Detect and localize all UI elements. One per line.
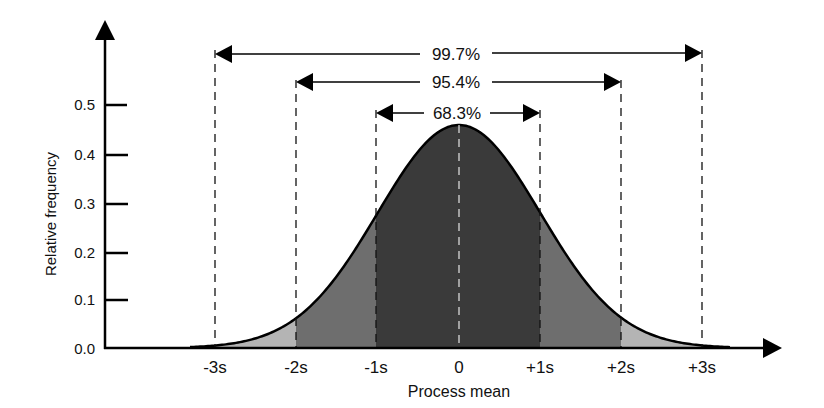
label-99-7: 99.7% bbox=[432, 45, 480, 64]
x-tick-minus-3s: -3s bbox=[203, 358, 227, 377]
span-683: 68.3% bbox=[376, 104, 540, 123]
label-68-3: 68.3% bbox=[433, 104, 481, 123]
arrow-right-icon bbox=[685, 44, 702, 62]
arrow-left-icon bbox=[376, 104, 393, 122]
y-tick-0-5: 0.5 bbox=[74, 96, 95, 113]
region-inner bbox=[376, 100, 540, 350]
x-tick-labels: -3s -2s -1s 0 +1s +2s +3s bbox=[203, 358, 716, 377]
region-outer-left bbox=[190, 100, 296, 350]
x-tick-0: 0 bbox=[454, 358, 463, 377]
x-tick-minus-2s: -2s bbox=[284, 358, 308, 377]
x-axis-arrow-icon bbox=[763, 338, 782, 358]
x-tick-minus-1s: -1s bbox=[364, 358, 388, 377]
arrow-left-icon bbox=[215, 45, 232, 63]
span-954: 95.4% bbox=[296, 73, 621, 92]
y-tick-0-3: 0.3 bbox=[74, 195, 95, 212]
region-middle-right bbox=[540, 100, 621, 350]
normal-distribution-chart: 0.5 0.4 0.3 0.2 0.1 0.0 Relative frequen… bbox=[0, 0, 824, 408]
x-tick-plus-1s: +1s bbox=[526, 358, 554, 377]
y-axis-label: Relative frequency bbox=[42, 151, 59, 276]
x-axis-label: Process mean bbox=[408, 383, 510, 400]
arrow-right-icon bbox=[523, 104, 540, 122]
y-tick-0-4: 0.4 bbox=[74, 146, 95, 163]
region-outer-right bbox=[621, 100, 731, 350]
y-ticks bbox=[105, 105, 128, 300]
arrow-right-icon bbox=[604, 73, 621, 91]
region-middle-left bbox=[296, 100, 376, 350]
y-tick-0-2: 0.2 bbox=[74, 244, 95, 261]
shaded-regions bbox=[190, 100, 731, 350]
span-997: 99.7% bbox=[215, 44, 702, 64]
y-tick-0-0: 0.0 bbox=[74, 340, 95, 357]
arrow-left-icon bbox=[296, 73, 313, 91]
y-tick-0-1: 0.1 bbox=[74, 291, 95, 308]
y-axis-arrow-icon bbox=[95, 20, 115, 40]
x-tick-plus-2s: +2s bbox=[607, 358, 635, 377]
x-tick-plus-3s: +3s bbox=[688, 358, 716, 377]
label-95-4: 95.4% bbox=[432, 73, 480, 92]
y-tick-labels: 0.5 0.4 0.3 0.2 0.1 0.0 bbox=[74, 96, 95, 357]
